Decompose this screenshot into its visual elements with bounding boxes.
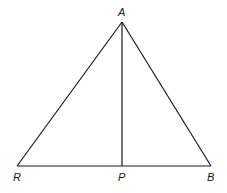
segment-AR — [17, 22, 122, 166]
triangle-diagram: A R P B — [0, 0, 227, 193]
label-R: R — [13, 171, 21, 183]
label-A: A — [117, 6, 125, 18]
segment-AB — [122, 22, 211, 166]
label-P: P — [118, 171, 126, 183]
label-B: B — [207, 171, 214, 183]
